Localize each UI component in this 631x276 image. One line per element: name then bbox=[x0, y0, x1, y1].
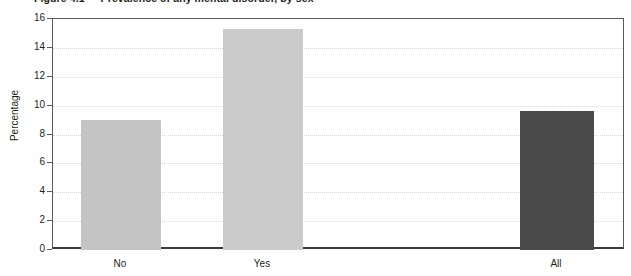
y-axis: Percentage 0246810121416 bbox=[0, 0, 52, 276]
y-axis-tick-label: 12 bbox=[34, 69, 45, 82]
bar-no bbox=[81, 120, 161, 250]
y-axis-tick: 12 bbox=[0, 76, 52, 77]
bar-all bbox=[520, 111, 594, 250]
y-axis-tick: 14 bbox=[0, 47, 52, 48]
bar-yes bbox=[223, 29, 303, 250]
y-axis-tick: 16 bbox=[0, 18, 52, 19]
x-axis-tick-label: No bbox=[114, 258, 127, 269]
y-axis-tick-label: 14 bbox=[34, 40, 45, 53]
y-axis-tick-label: 2 bbox=[39, 213, 45, 226]
y-axis-tick: 8 bbox=[0, 134, 52, 135]
y-axis-tick-mark bbox=[47, 249, 52, 250]
y-axis-tick-label: 10 bbox=[34, 98, 45, 111]
figure-container: Figure 4.1Prevalence of any mental disor… bbox=[0, 0, 631, 276]
y-axis-tick: 2 bbox=[0, 220, 52, 221]
y-axis-title: Percentage bbox=[9, 56, 20, 176]
figure-caption: Figure 4.1Prevalence of any mental disor… bbox=[34, 0, 314, 4]
plot-area bbox=[52, 18, 624, 249]
x-axis-tick-label: All bbox=[550, 258, 561, 269]
y-axis-tick: 6 bbox=[0, 162, 52, 163]
gridline bbox=[53, 48, 623, 50]
figure-caption-clip: Figure 4.1Prevalence of any mental disor… bbox=[0, 0, 631, 9]
y-axis-tick-label: 6 bbox=[39, 155, 45, 168]
x-axis-tick-label: Yes bbox=[254, 258, 270, 269]
y-axis-tick-label: 4 bbox=[39, 184, 45, 197]
y-axis-tick: 4 bbox=[0, 191, 52, 192]
y-axis-tick: 10 bbox=[0, 105, 52, 106]
x-axis: NoYesAll bbox=[0, 252, 631, 276]
y-axis-tick: 0 bbox=[0, 249, 52, 250]
gridline bbox=[53, 106, 623, 108]
gridline bbox=[53, 77, 623, 79]
y-axis-tick-label: 8 bbox=[39, 127, 45, 140]
figure-caption-text: Prevalence of any mental disorder, by se… bbox=[101, 0, 314, 4]
y-axis-tick-label: 16 bbox=[34, 11, 45, 24]
